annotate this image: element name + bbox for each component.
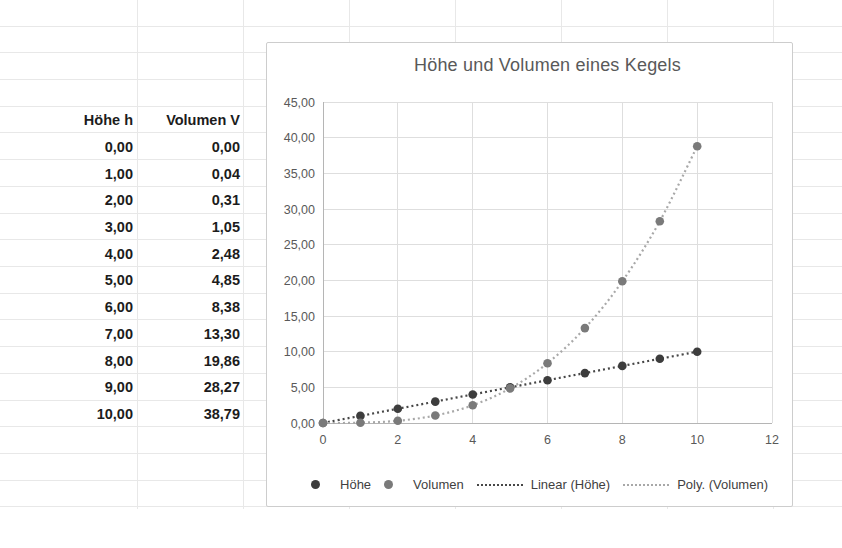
table-cell[interactable]: 38,79: [133, 406, 240, 422]
table-row: 9,0028,27: [0, 374, 240, 401]
legend-dot-icon: [311, 480, 320, 489]
table-row: 6,008,38: [0, 294, 240, 321]
svg-text:40,00: 40,00: [284, 131, 315, 145]
table-cell[interactable]: 8,38: [133, 299, 240, 315]
legend-dotted-line-icon: [477, 484, 523, 486]
data-point: [431, 411, 440, 420]
table-cell[interactable]: 0,31: [133, 192, 240, 208]
legend-label: Linear (Höhe): [531, 477, 611, 492]
legend-label: Poly. (Volumen): [677, 477, 768, 492]
data-point: [356, 418, 365, 427]
table-cell[interactable]: 5,00: [0, 272, 133, 288]
data-point: [581, 369, 590, 378]
data-point: [394, 404, 403, 413]
x-axis-labels: 024681012: [320, 433, 779, 447]
data-point: [656, 355, 665, 364]
data-point: [581, 324, 590, 333]
table-cell[interactable]: 3,00: [0, 219, 133, 235]
table-cell[interactable]: 0,04: [133, 166, 240, 182]
svg-text:10: 10: [690, 433, 704, 447]
legend-dot-icon: [384, 480, 393, 489]
table-cell[interactable]: 10,00: [0, 406, 133, 422]
table-cell[interactable]: 28,27: [133, 379, 240, 395]
legend-item[interactable]: Höhe: [311, 477, 371, 492]
data-point: [543, 359, 552, 368]
table-row: 7,0013,30: [0, 321, 240, 348]
table-cell[interactable]: 0,00: [0, 139, 133, 155]
data-point: [468, 390, 477, 399]
svg-text:25,00: 25,00: [284, 238, 315, 252]
trendline: [323, 146, 697, 423]
table-header-row: Höhe h Volumen V: [0, 107, 240, 134]
svg-text:30,00: 30,00: [284, 203, 315, 217]
series-points: [319, 142, 702, 427]
y-axis-labels: 0,005,0010,0015,0020,0025,0030,0035,0040…: [284, 96, 315, 431]
table-cell[interactable]: 13,30: [133, 326, 240, 342]
legend-item[interactable]: Linear (Höhe): [477, 477, 611, 492]
table-row: 3,001,05: [0, 214, 240, 241]
data-point: [693, 142, 702, 151]
svg-text:0,00: 0,00: [291, 417, 315, 431]
svg-text:12: 12: [765, 433, 779, 447]
data-point: [618, 277, 627, 286]
table-cell[interactable]: 9,00: [0, 379, 133, 395]
svg-text:10,00: 10,00: [284, 345, 315, 359]
table-header-volumen[interactable]: Volumen V: [133, 112, 240, 128]
table-row: 10,0038,79: [0, 401, 240, 428]
chart-plot: 0,005,0010,0015,0020,0025,0030,0035,0040…: [267, 43, 792, 506]
plot-gridlines: [323, 102, 772, 423]
chart-legend: HöheVolumenLinear (Höhe)Poly. (Volumen): [307, 477, 772, 492]
table-row: 5,004,85: [0, 267, 240, 294]
data-point: [693, 347, 702, 356]
table-row: 4,002,48: [0, 240, 240, 267]
table-cell[interactable]: 7,00: [0, 326, 133, 342]
data-point: [656, 217, 665, 226]
legend-label: Höhe: [340, 477, 371, 492]
data-point: [468, 401, 477, 410]
table-row: 0,000,00: [0, 134, 240, 161]
data-point: [431, 397, 440, 406]
table-cell[interactable]: 4,85: [133, 272, 240, 288]
svg-text:20,00: 20,00: [284, 274, 315, 288]
legend-item[interactable]: Volumen: [384, 477, 464, 492]
data-table: Höhe h Volumen V 0,000,001,000,042,000,3…: [0, 107, 240, 427]
svg-text:15,00: 15,00: [284, 310, 315, 324]
svg-text:2: 2: [394, 433, 401, 447]
table-body: 0,000,001,000,042,000,313,001,054,002,48…: [0, 134, 240, 428]
legend-dotted-line-icon: [623, 484, 669, 486]
table-row: 2,000,31: [0, 187, 240, 214]
svg-text:4: 4: [469, 433, 476, 447]
svg-text:0: 0: [320, 433, 327, 447]
data-point: [319, 419, 328, 428]
table-cell[interactable]: 1,05: [133, 219, 240, 235]
chart-panel[interactable]: Höhe und Volumen eines Kegels 0,005,0010…: [266, 42, 793, 507]
table-cell[interactable]: 8,00: [0, 353, 133, 369]
svg-text:6: 6: [544, 433, 551, 447]
svg-text:5,00: 5,00: [291, 381, 315, 395]
table-header-hoehe[interactable]: Höhe h: [0, 112, 133, 128]
sheet-gridline: [243, 0, 244, 509]
table-cell[interactable]: 1,00: [0, 166, 133, 182]
table-row: 1,000,04: [0, 160, 240, 187]
svg-text:8: 8: [619, 433, 626, 447]
data-point: [618, 362, 627, 371]
data-point: [394, 417, 403, 426]
table-cell[interactable]: 19,86: [133, 353, 240, 369]
svg-text:35,00: 35,00: [284, 167, 315, 181]
data-point: [506, 384, 515, 393]
table-cell[interactable]: 4,00: [0, 246, 133, 262]
table-row: 8,0019,86: [0, 347, 240, 374]
table-cell[interactable]: 0,00: [133, 139, 240, 155]
data-point: [543, 376, 552, 385]
legend-item[interactable]: Poly. (Volumen): [623, 477, 768, 492]
table-cell[interactable]: 6,00: [0, 299, 133, 315]
table-cell[interactable]: 2,00: [0, 192, 133, 208]
legend-label: Volumen: [413, 477, 464, 492]
table-cell[interactable]: 2,48: [133, 246, 240, 262]
svg-text:45,00: 45,00: [284, 96, 315, 110]
